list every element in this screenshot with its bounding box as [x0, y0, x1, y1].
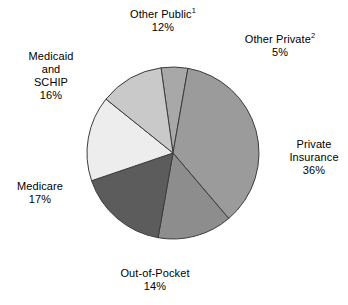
slice-label-other-public: Other Public1 12%: [106, 8, 220, 34]
slice-label-other-public-value: 12%: [106, 21, 220, 34]
slice-label-private-insurance: Private Insurance 36%: [282, 138, 346, 177]
slice-label-private-insurance-line2: Insurance: [282, 151, 346, 164]
slice-label-medicare-name: Medicare: [2, 180, 78, 193]
slice-label-other-public-name: Other Public1: [106, 8, 220, 21]
slice-label-medicaid-schip-line2: and: [14, 63, 88, 76]
slice-label-medicaid-schip: Medicaid and SCHIP 16%: [14, 50, 88, 102]
pie-slice-group: [87, 67, 259, 239]
footnote-marker-1: 1: [192, 6, 196, 15]
slice-label-other-private: Other Private2 5%: [222, 33, 338, 59]
slice-label-out-of-pocket-value: 14%: [96, 280, 214, 293]
slice-label-other-private-name: Other Private2: [222, 33, 338, 46]
slice-label-private-insurance-value: 36%: [282, 164, 346, 177]
slice-label-private-insurance-line1: Private: [282, 138, 346, 151]
slice-label-medicare-value: 17%: [2, 193, 78, 206]
slice-label-other-private-value: 5%: [222, 46, 338, 59]
footnote-marker-2: 2: [311, 31, 315, 40]
slice-label-medicare: Medicare 17%: [2, 180, 78, 206]
slice-label-out-of-pocket-name: Out-of-Pocket: [96, 267, 214, 280]
slice-label-medicaid-schip-line3: SCHIP: [14, 76, 88, 89]
slice-label-out-of-pocket: Out-of-Pocket 14%: [96, 267, 214, 293]
slice-label-medicaid-schip-line1: Medicaid: [14, 50, 88, 63]
slice-label-medicaid-schip-value: 16%: [14, 89, 88, 102]
pie-chart: Other Public1 12% Other Private2 5% Priv…: [0, 0, 348, 305]
